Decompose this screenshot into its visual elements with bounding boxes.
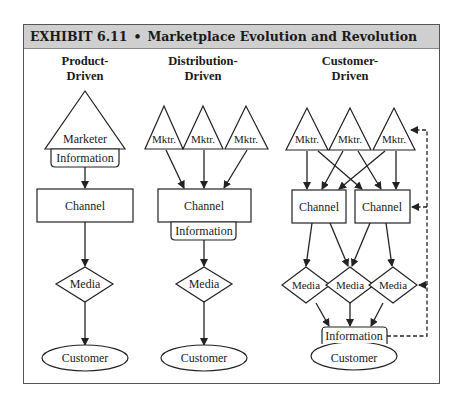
evolution-diagram: Product- Driven Distribution- Driven Cus… [0,0,463,402]
marketer-label: Marketer [63,132,107,146]
media-label-3: Media [379,279,407,291]
customer-heading-line2: Driven [332,69,369,83]
customer-label: Customer [62,351,109,365]
customer-heading-line1: Customer- [322,54,378,68]
mktr-label-3: Mktr. [382,133,406,145]
channel-label-1: Channel [299,200,340,214]
media-label-1: Media [292,279,320,291]
information-label: Information [325,329,382,343]
distribution-driven-column: Mktr. Mktr. Mktr. Channel Information Me… [145,106,268,371]
mktr-label-2: Mktr. [338,133,362,145]
customer-label: Customer [331,351,378,365]
mktr-label-1: Mktr. [152,133,176,145]
information-label: Information [175,224,232,238]
distribution-heading-line1: Distribution- [168,54,237,68]
media-label-2: Media [336,279,364,291]
customer-label: Customer [181,351,228,365]
channel-label-2: Channel [362,200,403,214]
feedback-loop [387,130,427,336]
media-label: Media [189,277,220,291]
product-heading-line2: Driven [67,69,104,83]
channel-label: Channel [184,199,225,213]
information-label: Information [56,151,113,165]
mktr-label-3: Mktr. [234,133,258,145]
mktr-label-1: Mktr. [295,133,319,145]
product-driven-column: Marketer Information Channel Media Custo… [37,91,133,371]
distribution-heading-line2: Driven [185,69,222,83]
media-label: Media [70,277,101,291]
customer-driven-column: Mktr. Mktr. Mktr. Channel Channel Media … [282,108,427,370]
product-heading-line1: Product- [62,54,109,68]
channel-label: Channel [65,199,106,213]
mktr-label-2: Mktr. [191,133,215,145]
